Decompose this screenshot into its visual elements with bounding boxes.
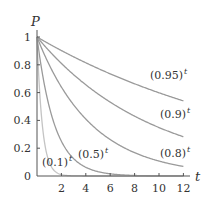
curve-label-exponent: t [187, 106, 191, 115]
x-tick-label: 2 [58, 182, 65, 195]
exponential-decay-chart: 2468101200.20.40.60.81 (0.95)t(0.9)t(0.8… [0, 0, 211, 203]
curve-label-exponent: t [187, 145, 191, 154]
y-axis-label: P [30, 14, 40, 29]
y-tick-label: 0.6 [14, 87, 32, 100]
curve-label: (0.95) [150, 69, 183, 82]
y-tick-label: 1 [24, 31, 31, 44]
x-tick-label: 12 [176, 182, 190, 195]
curve-label-exponent: t [105, 146, 109, 155]
x-axis-label: t [195, 169, 201, 184]
y-tick-label: 0.4 [14, 114, 32, 127]
x-tick-label: 10 [152, 182, 166, 195]
y-tick-label: 0.8 [14, 59, 32, 72]
curve-label-exponent: t [69, 154, 73, 163]
x-tick-label: 4 [82, 182, 89, 195]
y-tick-label: 0.2 [14, 142, 32, 155]
curve-labels-group: (0.95)t(0.9)t(0.8)t(0.5)t(0.1)t [42, 67, 191, 169]
x-tick-label: 8 [131, 182, 138, 195]
curve-09 [37, 37, 183, 137]
x-tick-label: 6 [107, 182, 114, 195]
curve-label-exponent: t [184, 67, 188, 76]
curve-label: (0.8) [160, 147, 186, 160]
y-tick-label: 0 [24, 170, 31, 183]
curve-label: (0.5) [78, 148, 104, 161]
curve-label: (0.9) [160, 108, 186, 121]
curve-label: (0.1) [42, 156, 68, 169]
